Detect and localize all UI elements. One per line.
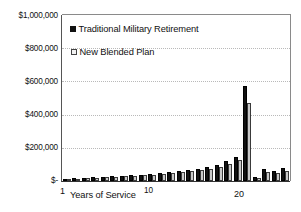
bar-group-year-16	[205, 15, 215, 181]
x-axis: 1 Years of Service 10 20	[0, 183, 301, 212]
bar-group-year-23	[271, 15, 281, 181]
bar-blended-year-14	[190, 171, 194, 181]
y-tick-label-200000: $200,000	[2, 143, 58, 152]
bar-group-year-9	[138, 15, 148, 181]
bar-blended-year-7	[124, 176, 128, 181]
bars-layer	[62, 15, 290, 181]
bar-group-year-10	[148, 15, 158, 181]
bar-blended-year-3	[86, 178, 90, 181]
bar-group-year-12	[167, 15, 177, 181]
bar-blended-year-24	[285, 171, 289, 181]
bar-blended-year-2	[76, 179, 80, 181]
plot-right-border	[290, 14, 291, 181]
y-tick-label-600000: $600,000	[2, 77, 58, 86]
bar-group-year-2	[72, 15, 82, 181]
bar-group-year-6	[110, 15, 120, 181]
bar-group-year-17	[214, 15, 224, 181]
legend-label-traditional: Traditional Military Retirement	[79, 24, 199, 34]
bar-group-year-11	[157, 15, 167, 181]
bar-blended-year-19	[238, 160, 242, 181]
bar-blended-year-22	[266, 172, 270, 181]
legend-label-blended: New Blended Plan	[80, 47, 155, 57]
bar-group-year-18	[224, 15, 234, 181]
bar-blended-year-9	[143, 175, 147, 181]
bar-group-year-1	[62, 15, 72, 181]
bar-blended-year-12	[171, 173, 175, 181]
bar-blended-year-15	[200, 170, 204, 181]
bar-group-year-21	[252, 15, 262, 181]
x-tick-label-1: 1	[60, 187, 65, 196]
bar-group-year-13	[176, 15, 186, 181]
bar-blended-year-18	[228, 164, 232, 181]
bar-blended-year-5	[105, 177, 109, 181]
bar-blended-year-10	[152, 175, 156, 181]
bar-blended-year-13	[181, 172, 185, 181]
x-tick-label-20: 20	[234, 190, 244, 199]
x-tick-label-10: 10	[144, 186, 153, 195]
legend-swatch-filled-square-icon	[70, 26, 76, 32]
bar-group-year-24	[281, 15, 291, 181]
legend-entry-traditional: Traditional Military Retirement	[70, 24, 199, 34]
bar-blended-year-20	[247, 103, 251, 181]
y-tick-label-800000: $800,000	[2, 44, 58, 53]
bar-group-year-20	[243, 15, 253, 181]
y-tick-label-400000: $400,000	[2, 110, 58, 119]
y-axis: $1,000,000 $800,000 $600,000 $400,000 $2…	[0, 0, 58, 212]
bar-blended-year-17	[219, 167, 223, 181]
bar-blended-year-21	[257, 178, 261, 181]
x-axis-title: Years of Service	[70, 190, 136, 200]
bar-group-year-7	[119, 15, 129, 181]
bar-group-year-22	[262, 15, 272, 181]
legend-swatch-open-square-icon	[71, 49, 77, 55]
bar-group-year-3	[81, 15, 91, 181]
bar-blended-year-6	[114, 177, 118, 181]
bar-blended-year-16	[209, 169, 213, 181]
bar-blended-year-23	[276, 173, 280, 181]
bar-group-year-19	[233, 15, 243, 181]
y-tick-label-1000000: $1,000,000	[2, 11, 58, 20]
retirement-comparison-bar-chart: $1,000,000 $800,000 $600,000 $400,000 $2…	[0, 0, 301, 212]
bar-group-year-14	[186, 15, 196, 181]
bar-blended-year-1	[67, 179, 71, 181]
bar-blended-year-11	[162, 174, 166, 181]
bar-group-year-5	[100, 15, 110, 181]
bar-group-year-8	[129, 15, 139, 181]
bar-blended-year-4	[95, 178, 99, 181]
bar-group-year-15	[195, 15, 205, 181]
bar-group-year-4	[91, 15, 101, 181]
bar-blended-year-8	[133, 176, 137, 181]
legend-entry-blended: New Blended Plan	[71, 47, 154, 57]
plot-area: Traditional Military Retirement New Blen…	[61, 15, 290, 182]
